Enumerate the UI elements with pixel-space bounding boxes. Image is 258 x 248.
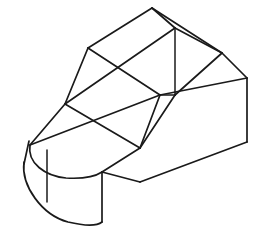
wedge-prism-group — [65, 8, 247, 148]
drawing-canvas — [0, 0, 258, 248]
wedge-right-corner-edge — [222, 53, 247, 78]
arc-left-vertical-edge — [24, 141, 29, 164]
wedge-base-fold-edge — [175, 53, 222, 95]
wedge-apex-right-edge — [152, 8, 222, 53]
isometric-part-drawing — [0, 0, 258, 248]
base-slab-group — [65, 78, 247, 182]
base-upper-right-edge — [160, 78, 247, 95]
base-right-long-edge — [140, 142, 247, 182]
arc-top-ellipse — [30, 145, 102, 178]
base-top-front-edge — [102, 148, 140, 172]
base-top-left-edge — [65, 104, 140, 148]
mid-cross-edge-lower — [30, 95, 160, 145]
base-front-lower-edge — [102, 172, 140, 182]
wedge-face-diagonal-edge — [88, 48, 160, 95]
wedge-apex-lower-edge — [152, 8, 175, 28]
arc-bottom-ellipse — [24, 162, 102, 225]
wedge-left-top-edge — [88, 8, 152, 48]
wedge-ridge-front-edge — [175, 28, 222, 53]
